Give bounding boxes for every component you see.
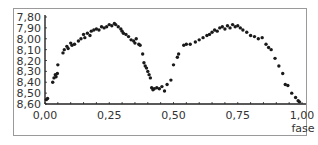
data-point — [165, 83, 168, 86]
data-point — [146, 70, 149, 73]
x-tick-label: 0,00 — [33, 109, 58, 122]
data-point — [198, 38, 201, 41]
data-point — [54, 75, 57, 78]
x-axis-title: fase — [291, 122, 314, 135]
data-point — [286, 84, 289, 87]
data-point — [290, 91, 293, 94]
light-curve-scatter-chart: 7,807,908,008,108,208,308,408,508,60 0,0… — [0, 0, 318, 145]
data-point — [253, 35, 256, 38]
data-point — [269, 48, 272, 51]
data-point — [61, 51, 64, 54]
data-points — [45, 22, 302, 104]
data-point — [228, 26, 231, 29]
data-point — [294, 96, 297, 99]
data-point — [194, 40, 197, 43]
data-point — [63, 48, 66, 51]
data-point — [189, 42, 192, 45]
data-point — [79, 37, 82, 40]
x-tick-label: 0,25 — [97, 109, 122, 122]
data-point — [149, 76, 152, 79]
data-point — [145, 66, 148, 69]
data-point — [135, 37, 138, 40]
data-point — [277, 64, 280, 67]
data-point — [241, 28, 244, 31]
data-point — [56, 63, 59, 66]
data-point — [201, 36, 204, 39]
data-point — [160, 85, 163, 88]
data-point — [142, 61, 145, 64]
data-point — [141, 52, 144, 55]
data-point — [66, 47, 69, 50]
data-point — [223, 27, 226, 30]
data-point — [133, 41, 136, 44]
data-point — [127, 35, 130, 38]
data-point — [176, 56, 179, 59]
data-point — [257, 37, 260, 40]
data-point — [88, 34, 91, 37]
data-point — [245, 31, 248, 34]
data-point — [147, 73, 150, 76]
data-point — [273, 57, 276, 60]
x-tick-label: 0,50 — [161, 109, 186, 122]
y-axis: 7,807,908,008,108,208,308,408,508,60 — [17, 11, 48, 111]
data-point — [260, 36, 263, 39]
data-point — [46, 97, 49, 100]
data-point — [82, 33, 85, 36]
data-point — [163, 89, 166, 92]
x-tick-label: 1,00 — [290, 109, 315, 122]
data-point — [177, 52, 180, 55]
data-point — [51, 81, 54, 84]
x-axis: 0,000,250,500,751,00 — [33, 102, 315, 122]
data-point — [138, 44, 141, 47]
data-point — [215, 29, 218, 32]
data-point — [169, 78, 172, 81]
data-point — [185, 42, 188, 45]
data-point — [73, 42, 76, 45]
data-point — [264, 42, 267, 45]
data-point — [281, 72, 284, 75]
x-tick-label: 0,75 — [226, 109, 251, 122]
data-point — [83, 36, 86, 39]
data-point — [249, 34, 252, 37]
data-point — [172, 63, 175, 66]
data-point — [97, 28, 100, 31]
data-point — [298, 100, 301, 103]
data-point — [56, 72, 59, 75]
